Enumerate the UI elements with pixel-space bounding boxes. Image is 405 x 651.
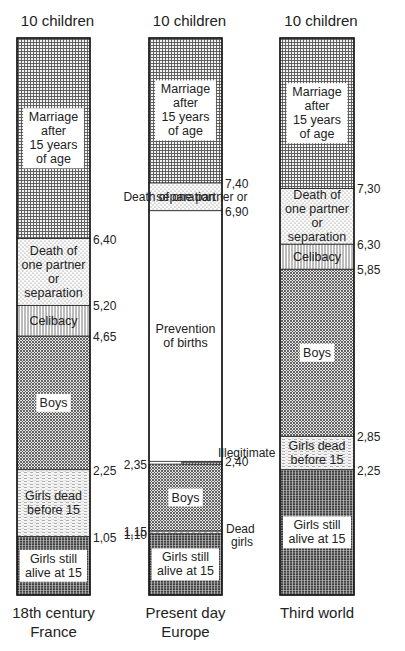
value-label: 2,25 — [357, 464, 381, 478]
value-label: 6,90 — [225, 205, 249, 219]
segment-label: one partner — [285, 202, 349, 216]
column-present-day-europe: 10 childrenGirls stillalive at 15BoysPre… — [123, 12, 275, 640]
segment-label: Marriage — [161, 82, 210, 96]
segment-label: alive at 15 — [289, 532, 346, 546]
segment-label: Marriage — [29, 110, 78, 124]
segment-label: alive at 15 — [25, 566, 82, 580]
segment-label: Death of — [30, 244, 78, 258]
segment-label: one partner — [22, 258, 86, 272]
segment-label: Girls dead — [289, 439, 346, 453]
segment-label: Boys — [172, 491, 200, 505]
segment-label: before 15 — [27, 503, 80, 517]
value-label: 7,30 — [357, 182, 381, 196]
segment-label: Girls still — [30, 552, 77, 566]
annotation-illegitimate: Illegitimate — [218, 446, 276, 460]
segment-label: separation — [288, 230, 346, 244]
column-18th-century-france: 10 childrenGirls stillalive at 15Girls d… — [12, 12, 116, 640]
segment-label: or — [311, 216, 322, 230]
segment-dead-girls — [149, 531, 222, 534]
segment-label: Boys — [40, 396, 68, 410]
segment-label: Boys — [303, 346, 331, 360]
segment-label: Prevention — [156, 322, 216, 336]
segment-label: 15 years — [30, 138, 78, 152]
segment-label: of age — [168, 124, 203, 138]
value-label: 2,85 — [357, 430, 381, 444]
category-label: 18th century — [12, 604, 95, 621]
segment-label: of age — [300, 127, 335, 141]
category-label: Europe — [161, 623, 209, 640]
segment-label: Girls still — [293, 518, 340, 532]
value-label: 2,25 — [93, 464, 117, 478]
value-label: 6,40 — [93, 233, 117, 247]
value-label: 1,10 — [124, 528, 148, 542]
segment-label: or — [48, 272, 59, 286]
segment-illegitimate — [182, 461, 222, 464]
segment-label: after — [304, 99, 329, 113]
segment-label: Marriage — [292, 85, 341, 99]
segment-label: Death of — [293, 188, 341, 202]
segment-label: Girls still — [162, 550, 209, 564]
column-third-world: 10 childrenGirls stillalive at 15Girls d… — [280, 12, 381, 621]
top-label-10-children: 10 children — [153, 12, 226, 29]
segment-label: Celibacy — [293, 250, 342, 264]
cropped-caption-fragment — [0, 642, 405, 651]
value-label: 2,35 — [124, 458, 148, 472]
category-label: Third world — [280, 604, 354, 621]
segment-label: separation — [24, 286, 82, 300]
segment-label: of age — [36, 152, 71, 166]
segment-label: after — [173, 96, 198, 110]
segment-label: Girls dead — [25, 489, 82, 503]
value-label: 4,65 — [93, 330, 117, 344]
annotation-death-of-one-partner-or: Death of one partner or — [123, 190, 247, 204]
segment-label: alive at 15 — [157, 564, 214, 578]
segment-label: 15 years — [293, 113, 341, 127]
category-label: Present day — [145, 604, 226, 621]
segment-label: before 15 — [291, 453, 344, 467]
segment-label: 15 years — [162, 110, 210, 124]
value-label: 5,20 — [93, 299, 117, 313]
value-label: 7,40 — [225, 177, 249, 191]
top-label-10-children: 10 children — [284, 12, 357, 29]
segment-label: Celibacy — [30, 314, 79, 328]
value-label: 1,05 — [93, 531, 117, 545]
value-label: 5,85 — [357, 263, 381, 277]
top-label-10-children: 10 children — [21, 12, 94, 29]
category-label: France — [30, 623, 77, 640]
value-label: 6,30 — [357, 238, 381, 252]
segment-label: after — [41, 124, 66, 138]
annotation-girls: girls — [231, 535, 253, 549]
stacked-bar-chart: 10 childrenGirls stillalive at 15Girls d… — [0, 0, 405, 651]
segment-label: of births — [163, 336, 207, 350]
